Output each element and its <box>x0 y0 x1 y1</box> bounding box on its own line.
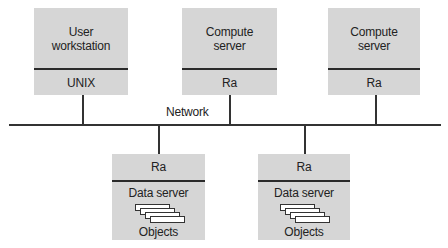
node-title: User workstation <box>34 8 128 69</box>
node-layer: Ra <box>328 70 420 95</box>
objects-label: Objects <box>139 225 178 239</box>
node-layer: Ra <box>258 154 350 180</box>
node-title-line-1: Compute <box>206 25 253 39</box>
node-title-line-2: workstation <box>52 39 111 53</box>
node-title: Data server <box>129 186 189 200</box>
node-layer: Ra <box>112 154 205 180</box>
node-title-line-2: server <box>213 39 245 53</box>
node-title-line-1: User <box>69 25 94 39</box>
data-server-2-node: Ra Data server Objects <box>258 154 350 240</box>
object-icon <box>150 216 185 223</box>
layer-label: Ra <box>367 76 382 90</box>
compute-server-1-node: Compute server Ra <box>182 8 277 95</box>
node-layer: UNIX <box>34 70 128 95</box>
objects-label: Objects <box>284 225 323 239</box>
objects-stack-icon <box>135 204 183 224</box>
data-server-2-connector <box>304 124 306 154</box>
node-body: Data server Objects <box>112 182 205 240</box>
object-icon <box>295 216 330 223</box>
objects-stack-icon <box>280 204 328 224</box>
node-body: Data server Objects <box>258 182 350 240</box>
compute-server-2-connector <box>375 95 377 125</box>
workstation-connector <box>82 95 84 125</box>
network-label: Network <box>166 105 209 119</box>
user-workstation-node: User workstation UNIX <box>34 8 128 95</box>
layer-label: Ra <box>222 76 237 90</box>
node-title: Compute server <box>328 8 420 69</box>
node-title-line-2: server <box>358 39 390 53</box>
layer-label: Ra <box>151 160 166 174</box>
compute-server-2-node: Compute server Ra <box>328 8 420 95</box>
node-title: Compute server <box>182 8 277 69</box>
compute-server-1-connector <box>229 95 231 125</box>
data-server-1-node: Ra Data server Objects <box>112 154 205 240</box>
data-server-1-connector <box>158 124 160 154</box>
node-title: Data server <box>274 186 334 200</box>
layer-label: UNIX <box>67 76 95 90</box>
node-title-line-1: Compute <box>350 25 397 39</box>
layer-label: Ra <box>297 160 312 174</box>
node-layer: Ra <box>182 70 277 95</box>
